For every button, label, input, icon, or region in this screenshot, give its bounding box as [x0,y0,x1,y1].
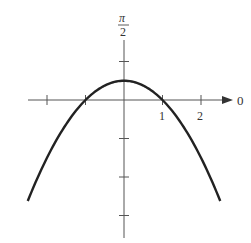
polar-graph: 0 1 2 π 2 [0,0,251,243]
polar-axis-label: 0 [237,93,244,108]
pi-over-2-numerator: π [119,11,126,25]
x-tick-label-2: 2 [197,109,203,123]
arrow-icon [222,96,233,104]
x-tick-label-1: 1 [159,109,165,123]
pi-over-2-denominator: 2 [120,25,126,39]
